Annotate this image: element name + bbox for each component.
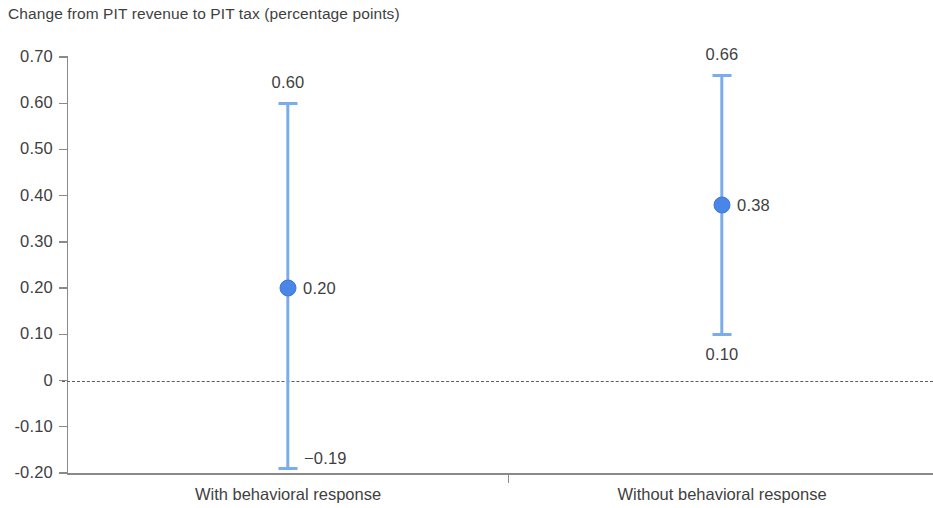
y-axis-line: [67, 57, 68, 474]
y-axis-tick-label-text: 0.30: [20, 233, 53, 250]
error-bar-upper-cap: [713, 74, 732, 77]
plot-area: 0.700.600.500.400.300.200.100-0.10-0.20 …: [0, 0, 933, 508]
y-axis-tick-label-text: -0.10: [14, 418, 53, 435]
y-axis-tick-label-text: 0.20: [20, 279, 53, 296]
x-axis-category-divider-tick: [508, 473, 509, 483]
y-axis-tick: [59, 195, 68, 196]
error-bar-upper-cap: [279, 102, 298, 105]
y-axis-tick: [59, 287, 68, 288]
y-axis-tick: [59, 103, 68, 104]
x-axis-category-label: Without behavioral response: [617, 483, 826, 505]
upper-bound-label: 0.60: [272, 74, 305, 91]
data-point-marker[interactable]: [280, 280, 297, 297]
upper-bound-label: 0.66: [706, 46, 739, 63]
y-axis-tick-label-text: 0.40: [20, 187, 53, 204]
error-bar-lower-cap: [279, 467, 298, 470]
y-axis-tick-label-text: 0.60: [20, 94, 53, 111]
estimate-label: 0.38: [737, 197, 770, 214]
lower-bound-label: 0.10: [706, 346, 739, 363]
y-axis-tick: [59, 241, 68, 242]
y-axis-tick-label-text: 0.10: [20, 325, 53, 342]
error-bar-lower-cap: [713, 333, 732, 336]
y-axis-tick: [59, 149, 68, 150]
y-axis-tick-label-text: -0.20: [14, 464, 53, 481]
x-axis-line: [67, 473, 933, 475]
lower-bound-label: −0.19: [304, 450, 347, 467]
y-axis-tick: [59, 56, 68, 57]
y-axis-tick-label-text: 0.50: [20, 140, 53, 157]
y-axis-tick: [59, 334, 68, 335]
estimate-label: 0.20: [303, 280, 336, 297]
y-axis-tick: [59, 426, 68, 427]
x-axis-category-label: With behavioral response: [195, 483, 381, 505]
error-bar-chart: Change from PIT revenue to PIT tax (perc…: [0, 0, 933, 508]
y-axis-tick-label-text: 0.70: [20, 48, 53, 65]
zero-reference-line: [62, 381, 933, 382]
y-axis-tick-label-text: 0: [44, 372, 53, 389]
data-point-marker[interactable]: [714, 196, 731, 213]
